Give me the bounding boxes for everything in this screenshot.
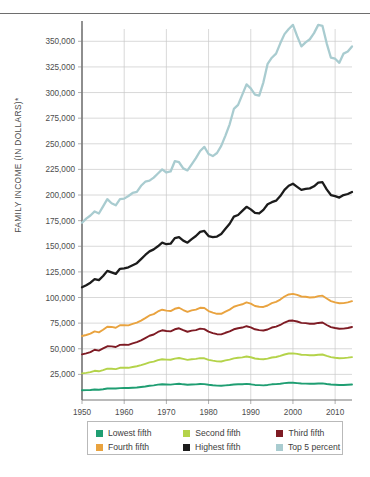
data-series-group: [82, 25, 352, 390]
x-gridlines-group: [82, 29, 335, 404]
y-tick-label: 50,000: [50, 345, 75, 354]
x-tick-label: 2010: [326, 408, 345, 417]
legend-item-third-fifth[interactable]: Third fifth: [276, 428, 336, 438]
legend-label-third-fifth: Third fifth: [288, 428, 324, 438]
y-tick-label: 175,000: [45, 217, 75, 226]
x-tick-label: 1980: [199, 408, 218, 417]
series-line-top-5-percent: [82, 25, 352, 223]
series-line-second-fifth: [82, 353, 352, 373]
legend-label-highest-fifth: Highest fifth: [195, 442, 240, 452]
y-tick-label: 75,000: [50, 319, 75, 328]
x-tick-labels-group: 1950196019701980199020002010: [73, 408, 345, 417]
y-tick-label: 275,000: [45, 114, 75, 123]
legend-item-fourth-fifth[interactable]: Fourth fifth: [96, 442, 183, 452]
x-tick-label: 1950: [73, 408, 92, 417]
y-tick-label: 100,000: [45, 294, 75, 303]
legend-item-lowest-fifth[interactable]: Lowest fifth: [96, 428, 183, 438]
legend-swatch-second-fifth: [183, 430, 190, 437]
legend-swatch-third-fifth: [276, 430, 283, 437]
series-line-lowest-fifth: [82, 383, 352, 391]
y-tick-labels-group: 25,00050,00075,000100,000125,000150,0001…: [45, 37, 75, 379]
y-tick-label: 200,000: [45, 191, 75, 200]
legend-item-highest-fifth[interactable]: Highest fifth: [183, 442, 276, 452]
legend-swatch-highest-fifth: [183, 444, 190, 451]
legend-label-top-5-percent: Top 5 percent: [288, 442, 340, 452]
line-chart-svg: 25,00050,00075,000100,000125,000150,0001…: [0, 0, 370, 477]
legend-item-top-5-percent[interactable]: Top 5 percent: [276, 442, 336, 452]
chart-legend: Lowest fifth Second fifth Third fifth Fo…: [87, 421, 343, 455]
legend-row-1: Lowest fifth Second fifth Third fifth: [96, 426, 336, 440]
legend-label-fourth-fifth: Fourth fifth: [108, 442, 149, 452]
legend-swatch-fourth-fifth: [96, 444, 103, 451]
legend-row-2: Fourth fifth Highest fifth Top 5 percent: [96, 440, 336, 454]
x-tick-label: 2000: [284, 408, 303, 417]
x-tick-label: 1960: [115, 408, 134, 417]
axis-lines-group: [82, 21, 352, 400]
legend-item-second-fifth[interactable]: Second fifth: [183, 428, 276, 438]
series-line-fourth-fifth: [82, 294, 352, 336]
legend-label-second-fifth: Second fifth: [195, 428, 240, 438]
y-tick-label: 300,000: [45, 89, 75, 98]
x-tick-label: 1990: [242, 408, 261, 417]
y-tick-label: 225,000: [45, 165, 75, 174]
y-tick-label: 350,000: [45, 37, 75, 46]
legend-swatch-top-5-percent: [276, 444, 283, 451]
y-tick-label: 25,000: [50, 370, 75, 379]
chart-figure: FAMILY INCOME (IN DOLLARS)* 25,00050,000…: [0, 0, 370, 477]
y-tick-label: 250,000: [45, 140, 75, 149]
legend-label-lowest-fifth: Lowest fifth: [108, 428, 151, 438]
y-tick-label: 150,000: [45, 242, 75, 251]
plot-area: 25,00050,00075,000100,000125,000150,0001…: [0, 0, 370, 477]
y-tick-label: 125,000: [45, 268, 75, 277]
x-tick-label: 1970: [157, 408, 176, 417]
y-tick-label: 325,000: [45, 63, 75, 72]
legend-swatch-lowest-fifth: [96, 430, 103, 437]
